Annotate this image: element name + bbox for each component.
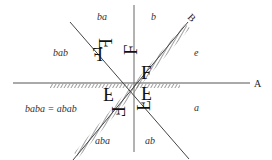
glyph-f-bab: F: [92, 44, 103, 65]
glyph-f-a: F: [141, 83, 152, 104]
region-label-e: e: [194, 47, 199, 58]
region-label-bab: bab: [53, 47, 68, 58]
region-label-a: a: [194, 102, 199, 113]
glyph-f-baba: F: [103, 84, 114, 105]
glyph-f-e: F: [141, 62, 152, 83]
axis-label-a: A: [254, 78, 262, 89]
diagram-canvas: B A ba b bab e baba = abab a aba ab F F …: [0, 0, 272, 160]
glyph-f-b: F: [120, 44, 141, 55]
mirror-b-line: [73, 22, 188, 160]
region-label-aba: aba: [95, 135, 110, 146]
mirror-b-hatching: [74, 24, 190, 157]
region-label-b: b: [151, 11, 156, 22]
region-label-ba: ba: [97, 11, 107, 22]
mirror-a-hatching: [50, 84, 180, 88]
region-label-ab: ab: [145, 135, 155, 146]
region-label-baba: baba = abab: [25, 103, 77, 114]
glyph-f-aba: F: [108, 106, 129, 117]
